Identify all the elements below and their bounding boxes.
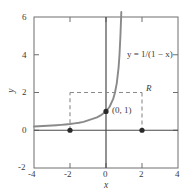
function-curve (34, 12, 121, 126)
right-tick-marks (173, 55, 178, 131)
x-tick-label-neg4: -4 (28, 170, 36, 179)
y-tick-label-6: 6 (22, 13, 27, 22)
point-label: (0, 1) (112, 106, 132, 115)
curve-equation-label: y = 1/(1 − x) (127, 50, 173, 59)
plot-area (0, 0, 193, 195)
left-tick-marks (34, 55, 39, 131)
x-tick-label-4: 4 (175, 170, 180, 179)
marker-curve-intercept (103, 109, 108, 114)
y-tick-label-neg2: -2 (18, 163, 26, 172)
x-tick-label-0: 0 (103, 170, 108, 179)
y-tick-label-0: 0 (22, 126, 27, 135)
region-label: R (146, 84, 152, 93)
y-tick-label-2: 2 (22, 88, 27, 97)
x-axis-label: x (104, 181, 108, 191)
marker-right-endpoint (139, 128, 144, 133)
y-axis-label: y (7, 89, 17, 93)
marker-left-endpoint (67, 128, 72, 133)
x-tick-label-2: 2 (139, 170, 144, 179)
y-tick-label-4: 4 (22, 51, 27, 60)
figure-container: 6 4 2 0 -2 -4 -2 0 2 4 y x y = 1/(1 − x)… (0, 0, 193, 195)
x-tick-label-neg2: -2 (64, 170, 72, 179)
